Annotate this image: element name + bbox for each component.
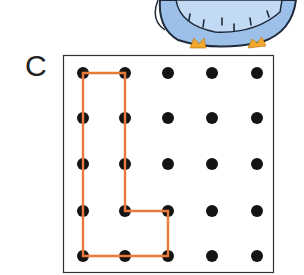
grid-dot — [251, 158, 263, 170]
grid-dots — [77, 67, 263, 262]
grid-dot — [162, 112, 174, 124]
grid-dot — [162, 158, 174, 170]
grid-dot — [251, 67, 263, 79]
grid-dot — [162, 67, 174, 79]
grid-dot — [206, 205, 218, 217]
dot-grid-figure — [0, 0, 304, 275]
grid-dot — [251, 112, 263, 124]
grid-dot — [206, 67, 218, 79]
grid-dot — [251, 205, 263, 217]
grid-dot — [251, 250, 263, 262]
grid-dot — [206, 112, 218, 124]
grid-dot — [206, 158, 218, 170]
l-shape-outline — [83, 73, 168, 256]
grid-dot — [206, 250, 218, 262]
owl-illustration — [155, 0, 296, 48]
